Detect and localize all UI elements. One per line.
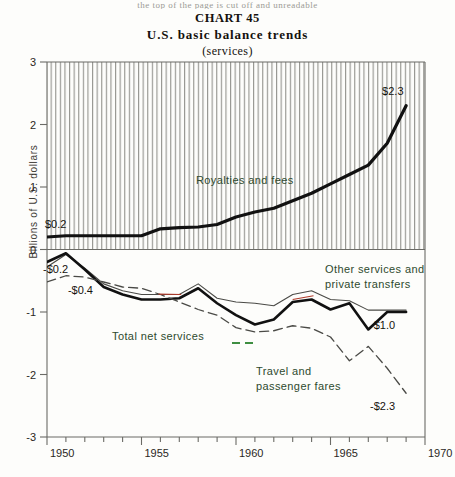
annotation-total-net: Total net services: [112, 330, 204, 342]
annotation-royalties: Royalties and fees: [196, 174, 294, 186]
x-tick-label: 1955: [145, 447, 169, 459]
y-tick-label: 0: [30, 244, 36, 256]
chart-page: the top of the page is cut off and unrea…: [0, 0, 455, 477]
y-tick-label: 3: [30, 56, 36, 68]
upper-panel-hatching: [47, 62, 425, 250]
x-tick-label: 1960: [239, 447, 263, 459]
y-tick-label: -2: [26, 369, 36, 381]
total-end-label: -$1.0: [370, 319, 395, 331]
x-tick-labels: 19501955196019651970: [50, 447, 452, 459]
travel-end-label: -$2.3: [370, 400, 395, 412]
y-tick-label: -3: [26, 431, 36, 443]
x-tick-label: 1965: [334, 447, 358, 459]
total-start-label: -$0.2: [43, 263, 68, 275]
x-tick-label: 1970: [428, 447, 452, 459]
annotation-other-services: Other services and: [325, 263, 425, 275]
y-tick-label: 2: [30, 119, 36, 131]
y-tick-label: -1: [26, 306, 36, 318]
x-tick-label: 1950: [50, 447, 74, 459]
annotation-other-services: private transfers: [325, 278, 411, 290]
y-tick-labels: 3210-1-2-3: [26, 56, 36, 443]
y-tick-label: 1: [30, 181, 36, 193]
travel-start-label: -$0.4: [68, 284, 93, 296]
royalties-start-label: $0.2: [45, 218, 66, 230]
royalties-end-label: $2.3: [382, 85, 403, 97]
annotation-travel: Travel and: [256, 365, 312, 377]
chart-plot: 3210-1-2-3 19501955196019651970 $0.2$2.3…: [0, 0, 455, 477]
annotation-travel: passenger fares: [256, 380, 341, 392]
series-line: [47, 276, 406, 394]
